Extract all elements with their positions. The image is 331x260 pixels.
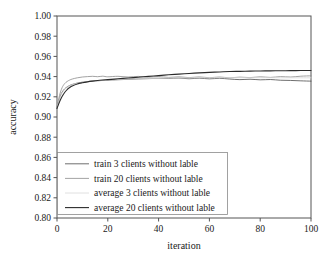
y-tick-label: 0.82 [34,193,51,203]
x-tick-label: 60 [205,224,215,234]
x-tick-label: 40 [154,224,164,234]
y-tick-label: 0.80 [34,213,51,223]
y-tick-label: 0.88 [34,133,51,143]
y-tick-label: 0.98 [34,32,51,42]
y-tick-label: 0.96 [34,52,51,62]
legend-label-2: average 3 clients without lable [94,188,210,198]
chart-legend: train 3 clients without labletrain 20 cl… [58,153,228,215]
x-tick-label: 80 [255,224,265,234]
y-tick-label: 0.84 [34,173,51,183]
x-tick-label: 0 [55,224,60,234]
y-tick-label: 0.86 [34,153,51,163]
y-tick-label: 0.94 [34,72,51,82]
y-tick-label: 0.90 [34,112,51,122]
legend-label-3: average 20 clients without lable [94,203,215,213]
y-tick-label: 0.92 [34,92,51,102]
y-axis-label: accuracy [7,99,18,135]
legend-label-1: train 20 clients without lable [94,174,203,184]
x-tick-label: 20 [103,224,113,234]
legend-label-0: train 3 clients without lable [94,159,198,169]
x-axis-label: iteration [167,240,200,251]
accuracy-vs-iteration-chart: 0.800.820.840.860.880.900.920.940.960.98… [0,0,331,260]
x-tick-label: 100 [304,224,319,234]
y-tick-label: 1.00 [34,11,51,21]
